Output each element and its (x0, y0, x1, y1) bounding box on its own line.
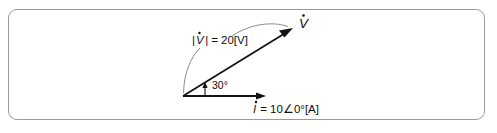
phasor-diagram-canvas: V |V|= 20[V] 30° I= 10∠0°[A] (0, 0, 497, 133)
magnitude-symbol: V (196, 34, 205, 46)
current-phasor-label: I= 10∠0°[A] (253, 103, 319, 115)
magnitude-bar-close: | (205, 34, 208, 46)
magnitude-value: = 20[V] (211, 34, 248, 46)
magnitude-bar-open: | (192, 34, 195, 46)
voltage-magnitude-label: |V|= 20[V] (192, 34, 248, 46)
current-phasor-label-dot-icon (255, 101, 257, 103)
current-phasor-arrowhead (256, 92, 266, 99)
voltage-phasor-label-dot-icon (302, 14, 305, 17)
voltage-magnitude-label-dot-icon (198, 32, 200, 34)
current-symbol: I (253, 103, 257, 115)
angle-label: 30° (212, 79, 228, 91)
phasor-diagram-figure: V |V|= 20[V] 30° I= 10∠0°[A] (0, 0, 497, 133)
current-value: = 10∠0°[A] (260, 103, 319, 115)
voltage-phasor-label: V (299, 16, 310, 31)
